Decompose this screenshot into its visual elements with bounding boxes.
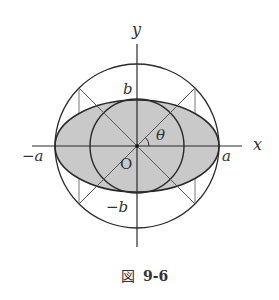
origin-point (135, 144, 139, 148)
figure-caption-number: 9-6 (143, 268, 168, 284)
x-axis-label: x (253, 135, 262, 154)
origin-label: O (120, 155, 132, 173)
neg-a-label: −a (22, 147, 44, 165)
y-axis-label: y (131, 20, 142, 39)
figure-caption-prefix: 図 (121, 268, 135, 284)
angle-label: θ (156, 126, 165, 144)
pos-b-label: b (123, 80, 133, 98)
neg-b-label: −b (106, 198, 128, 216)
pos-a-label: a (222, 147, 231, 165)
ellipse-diagram: y x b −b a −a O θ 図 9-6 (0, 0, 279, 300)
